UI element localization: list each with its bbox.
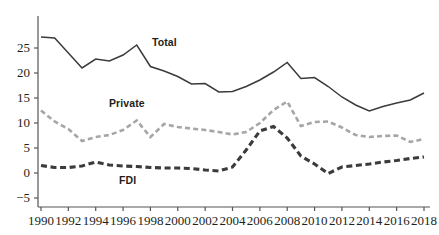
y-tick-label-0: 0 <box>4 166 30 179</box>
series-line-private <box>41 102 424 143</box>
chart-figure: 2520151050−5 199019921994199619982000200… <box>0 0 439 235</box>
y-tick-label-5: 5 <box>4 141 30 154</box>
series-label-total: Total <box>152 36 177 48</box>
line-chart-canvas <box>0 0 439 235</box>
y-tick-label-10: 10 <box>4 116 30 129</box>
y-tick-label-neg5: −5 <box>4 191 30 204</box>
x-tick-label-2018: 2018 <box>407 214 439 227</box>
y-tick-label-15: 15 <box>4 91 30 104</box>
series-label-private: Private <box>109 97 145 109</box>
series-label-fdi: FDI <box>119 174 136 186</box>
series-line-total <box>41 37 424 111</box>
y-tick-label-25: 25 <box>4 41 30 54</box>
y-tick-label-20: 20 <box>4 66 30 79</box>
series-line-fdi <box>41 127 424 174</box>
